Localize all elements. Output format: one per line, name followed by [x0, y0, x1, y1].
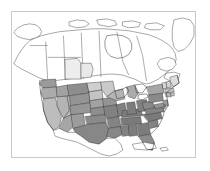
north-america-choropleth-map	[12, 12, 195, 157]
state-in	[127, 102, 137, 115]
state-wa	[40, 79, 57, 88]
figure-canvas	[0, 0, 210, 171]
state-la	[107, 126, 123, 138]
state-nh	[166, 81, 171, 88]
map-axes-frame	[11, 11, 196, 158]
state-ri	[171, 93, 174, 96]
state-ga	[138, 122, 151, 136]
canada-landmass	[14, 18, 194, 84]
state-mi	[127, 85, 139, 99]
state-id	[57, 85, 70, 97]
state-ny	[147, 84, 165, 95]
state-or	[41, 87, 58, 99]
state-al	[129, 124, 138, 136]
state-mo	[104, 105, 119, 119]
state-ma	[165, 88, 174, 93]
